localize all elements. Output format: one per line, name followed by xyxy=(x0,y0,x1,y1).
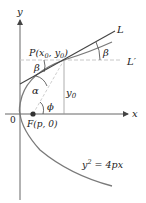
phi-arc xyxy=(40,102,44,114)
point-p-label: P(x0, y0) xyxy=(28,47,68,60)
beta-label-right: β xyxy=(102,47,109,58)
y-axis-label: y xyxy=(16,6,23,17)
phi-label: ϕ xyxy=(47,101,54,112)
x-axis-label: x xyxy=(132,108,138,119)
focus-point xyxy=(30,111,35,116)
curve-equation: y2 = 4px xyxy=(81,158,124,170)
horizontal-line-label: L′ xyxy=(126,56,137,67)
origin-label: 0 xyxy=(10,115,16,125)
y0-label: y0 xyxy=(65,87,77,100)
parabola-reflection-diagram: y x 0 P(x0, y0) F(p, 0) L L′ y0 β β α ϕ … xyxy=(0,0,146,203)
beta-arc-top xyxy=(44,60,45,72)
alpha-label: α xyxy=(32,85,39,96)
beta-arc-right xyxy=(96,42,100,60)
focus-label: F(p, 0) xyxy=(26,119,58,129)
beta-label-top: β xyxy=(33,62,40,73)
tangent-line-label: L xyxy=(116,24,124,35)
